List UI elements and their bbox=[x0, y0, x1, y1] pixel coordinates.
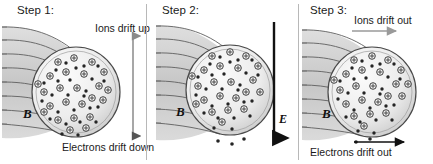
escaped-electrons bbox=[216, 137, 246, 146]
b-field-label-2: B bbox=[176, 104, 185, 120]
caption-electrons-drift-out: Electrons drift out bbox=[310, 146, 392, 158]
caption-ions-drift-up: Ions drift up bbox=[95, 22, 150, 34]
step-label-1: Step 1: bbox=[17, 4, 54, 16]
figure-canvas: Step 1: B Ions drift up Electrons drift … bbox=[0, 0, 433, 164]
b-field-label-1: B bbox=[23, 106, 32, 122]
panel-step-2: Step 2: B E bbox=[146, 0, 298, 164]
e-field-label-2: E bbox=[279, 112, 287, 127]
panel-2-graphic bbox=[146, 0, 298, 164]
caption-ions-drift-out: Ions drift out bbox=[354, 14, 412, 26]
caption-electrons-drift-down: Electrons drift down bbox=[62, 141, 154, 153]
b-field-label-3: B bbox=[322, 106, 331, 122]
step-label-3: Step 3: bbox=[310, 4, 347, 16]
escaped-electrons bbox=[354, 137, 372, 144]
panel-step-1: Step 1: B Ions drift up Electrons drift … bbox=[0, 0, 146, 164]
step-label-2: Step 2: bbox=[162, 4, 199, 16]
panel-step-3: Step 3: B Ions drift out Electrons drift… bbox=[298, 0, 433, 164]
